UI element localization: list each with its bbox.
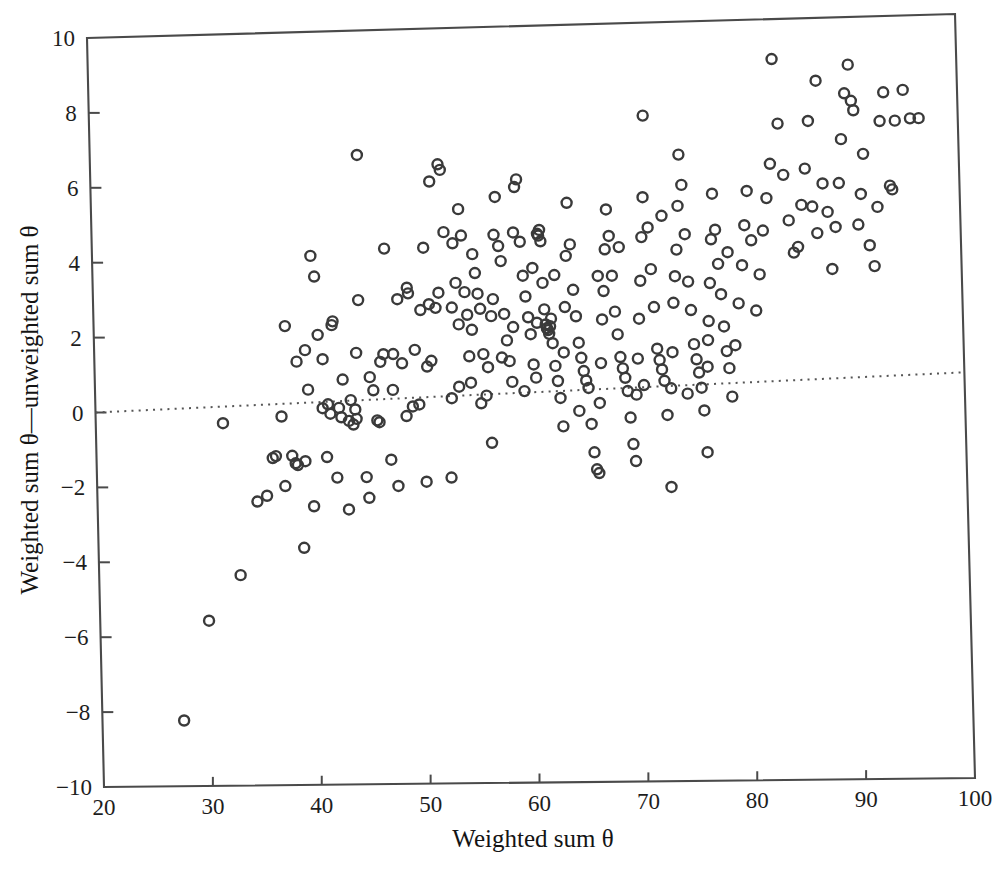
data-point — [496, 256, 506, 266]
data-point — [565, 239, 575, 249]
data-point — [827, 264, 837, 274]
data-point — [473, 289, 483, 299]
data-point — [447, 238, 457, 248]
data-point — [362, 472, 372, 482]
data-point — [318, 354, 328, 364]
data-point — [755, 269, 765, 279]
data-point — [742, 186, 752, 196]
y-tick-label: 8 — [65, 101, 77, 126]
data-point — [865, 240, 875, 250]
data-point — [386, 455, 396, 465]
data-point — [561, 251, 571, 261]
data-point — [646, 264, 656, 274]
y-tick-label: 10 — [52, 26, 75, 51]
data-point — [388, 349, 398, 359]
y-tick-label: 6 — [67, 176, 79, 201]
data-point — [489, 230, 499, 240]
data-point — [848, 105, 858, 115]
data-point — [620, 373, 630, 383]
data-point — [309, 501, 319, 511]
data-point — [539, 304, 549, 314]
data-point — [707, 189, 717, 199]
plot-canvas: 2030405060708090100−10−8−6−4−20246810 We… — [0, 0, 1005, 878]
data-point — [870, 261, 880, 271]
data-point — [493, 241, 503, 251]
data-point — [607, 271, 617, 281]
data-point — [392, 294, 402, 304]
data-point — [716, 289, 726, 299]
x-tick-label: 60 — [528, 791, 551, 816]
data-point — [515, 237, 525, 247]
data-point — [464, 351, 474, 361]
data-point — [767, 54, 777, 64]
data-point — [305, 251, 315, 261]
data-point — [587, 419, 597, 429]
data-point — [599, 286, 609, 296]
data-point — [614, 242, 624, 252]
data-point — [638, 192, 648, 202]
data-point — [778, 170, 788, 180]
data-point — [507, 377, 517, 387]
data-point — [670, 271, 680, 281]
data-point — [604, 231, 614, 241]
data-point — [459, 287, 469, 297]
data-point — [811, 76, 821, 86]
data-point — [872, 202, 882, 212]
data-point — [739, 220, 749, 230]
data-point — [422, 477, 432, 487]
data-point — [730, 340, 740, 350]
data-point — [898, 85, 908, 95]
data-point — [568, 285, 578, 295]
x-tick-label: 90 — [855, 787, 878, 812]
data-point — [875, 116, 885, 126]
data-point — [574, 338, 584, 348]
data-point — [280, 321, 290, 331]
data-point — [703, 447, 713, 457]
data-point — [704, 316, 714, 326]
data-point — [499, 309, 509, 319]
data-point — [556, 393, 566, 403]
data-point — [656, 211, 666, 221]
data-point — [574, 406, 584, 416]
tick-labels: 2030405060708090100−10−8−6−4−20246810 — [52, 26, 992, 820]
data-point — [878, 87, 888, 97]
data-point — [344, 504, 354, 514]
data-point — [508, 227, 518, 237]
data-point — [634, 314, 644, 324]
data-point — [368, 385, 378, 395]
data-point — [571, 311, 581, 321]
data-point — [454, 319, 464, 329]
data-point — [765, 159, 775, 169]
data-point — [462, 310, 472, 320]
x-tick-label: 40 — [310, 793, 333, 818]
data-point — [322, 452, 332, 462]
data-point — [818, 178, 828, 188]
data-point — [527, 263, 537, 273]
data-point — [529, 359, 539, 369]
data-point — [453, 204, 463, 214]
data-point — [632, 390, 642, 400]
data-point — [796, 200, 806, 210]
data-point — [218, 418, 228, 428]
data-point — [502, 335, 512, 345]
data-point — [520, 292, 530, 302]
data-point — [467, 249, 477, 259]
data-point — [280, 481, 290, 491]
data-point — [890, 116, 900, 126]
data-point — [549, 270, 559, 280]
data-point — [508, 322, 518, 332]
data-point — [309, 272, 319, 282]
scatter-plot-figure: 2030405060708090100−10−8−6−4−20246810 We… — [0, 0, 1005, 878]
data-point — [590, 447, 600, 457]
data-point — [597, 314, 607, 324]
data-point — [773, 119, 783, 129]
data-point — [526, 329, 536, 339]
data-point — [858, 149, 868, 159]
data-point — [476, 398, 486, 408]
data-point — [262, 491, 272, 501]
data-point — [673, 201, 683, 211]
y-tick-label: −4 — [62, 550, 87, 575]
data-point — [610, 307, 620, 317]
data-point — [562, 198, 572, 208]
plot-border — [87, 14, 975, 787]
